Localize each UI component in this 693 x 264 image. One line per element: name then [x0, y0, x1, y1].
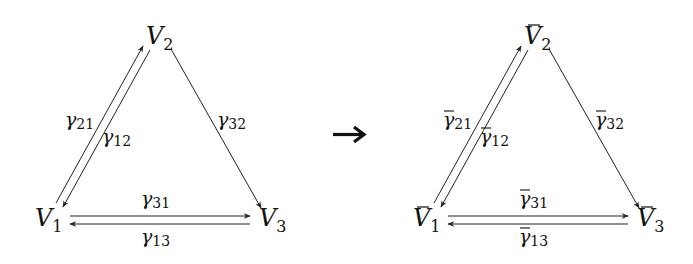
node-v1bar: V1 [413, 204, 441, 236]
label-gamma13: γ13 [141, 225, 170, 249]
edge-v2bar-to-v3bar [549, 49, 639, 208]
node-v3bar: V3 [637, 204, 665, 236]
svg-text:γ32: γ32 [595, 108, 624, 132]
diagram-original: V2 V1 V3 γ21 γ12 γ32 γ31 γ13 [35, 22, 287, 249]
svg-text:V3: V3 [637, 204, 665, 236]
label-gamma32-bar: γ32 [595, 108, 624, 132]
svg-text:γ21: γ21 [443, 108, 472, 132]
svg-text:V1: V1 [413, 204, 441, 236]
label-gamma21-bar: γ21 [443, 108, 472, 132]
node-v1: V1 [35, 204, 63, 236]
node-v3: V3 [259, 204, 287, 236]
label-gamma31-bar: γ31 [519, 187, 548, 211]
node-v2: V2 [146, 22, 174, 54]
svg-text:V2: V2 [524, 22, 552, 54]
label-gamma13-bar: γ13 [519, 225, 548, 249]
svg-text:γ31: γ31 [519, 187, 548, 211]
edge-v2-to-v3 [171, 49, 261, 208]
label-gamma31: γ31 [141, 187, 170, 211]
triangle-transform-diagram: V2 V1 V3 γ21 γ12 γ32 γ31 γ13 V2 V1 V3 [0, 0, 693, 264]
svg-text:γ12: γ12 [480, 125, 509, 149]
svg-text:γ13: γ13 [519, 225, 548, 249]
node-v2bar: V2 [524, 22, 552, 54]
label-gamma12: γ12 [102, 125, 131, 149]
label-gamma32: γ32 [217, 108, 246, 132]
label-gamma21: γ21 [65, 108, 94, 132]
diagram-transformed: V2 V1 V3 γ21 γ12 γ32 γ31 γ13 [413, 22, 665, 249]
label-gamma12-bar: γ12 [480, 125, 509, 149]
